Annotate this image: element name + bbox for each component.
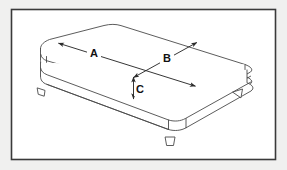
dimension-label-a: A: [90, 47, 98, 59]
dimension-label-b: B: [163, 52, 171, 64]
leg-front-center-icon: [166, 137, 176, 146]
diagram-root: A B C: [0, 0, 287, 170]
dimension-label-c: C: [136, 83, 144, 95]
bed-measurement-diagram: A B C: [0, 0, 287, 170]
